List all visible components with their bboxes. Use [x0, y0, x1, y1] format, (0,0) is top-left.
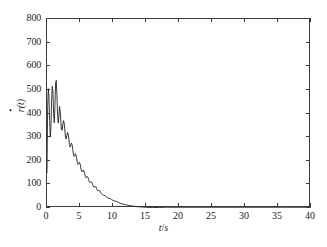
y-tick-label: 600	[7, 60, 41, 70]
x-tick-bottom	[46, 203, 47, 207]
y-tick-left	[46, 89, 50, 90]
y-tick-left	[46, 42, 50, 43]
series-r-dot-line	[47, 80, 311, 207]
x-tick-bottom	[244, 203, 245, 207]
x-tick-top	[46, 18, 47, 22]
x-tick-top	[79, 18, 80, 22]
derivative-dot-icon	[10, 109, 12, 111]
x-tick-bottom	[112, 203, 113, 207]
y-tick-label: 800	[7, 13, 41, 23]
y-tick-right	[306, 65, 310, 66]
y-tick-left	[46, 113, 50, 114]
y-tick-left	[46, 183, 50, 184]
x-tick-top	[145, 18, 146, 22]
x-axis-title: t/s	[0, 222, 327, 233]
y-axis-title-variable: r	[15, 108, 26, 112]
y-tick-right	[306, 160, 310, 161]
x-tick-bottom	[277, 203, 278, 207]
x-tick-top	[244, 18, 245, 22]
x-tick-label: 40	[295, 211, 325, 221]
x-tick-label: 5	[64, 211, 94, 221]
y-tick-right	[306, 183, 310, 184]
figure-canvas: 0100200300400500600700800 05101520253035…	[0, 0, 327, 247]
x-tick-label: 15	[130, 211, 160, 221]
y-axis-title-suffix: (t)	[15, 99, 26, 108]
x-tick-bottom	[178, 203, 179, 207]
y-tick-right	[306, 113, 310, 114]
y-tick-right	[306, 136, 310, 137]
x-tick-label: 35	[262, 211, 292, 221]
x-tick-top	[178, 18, 179, 22]
y-tick-right	[306, 207, 310, 208]
x-tick-bottom	[145, 203, 146, 207]
y-tick-left	[46, 65, 50, 66]
x-tick-bottom	[310, 203, 311, 207]
x-axis-title-unit: s	[164, 222, 168, 233]
x-tick-label: 20	[163, 211, 193, 221]
y-tick-left	[46, 136, 50, 137]
x-tick-label: 25	[196, 211, 226, 221]
x-tick-top	[277, 18, 278, 22]
y-tick-right	[306, 89, 310, 90]
y-tick-right	[306, 42, 310, 43]
y-tick-left	[46, 207, 50, 208]
data-curve-svg	[47, 19, 311, 208]
x-tick-top	[112, 18, 113, 22]
x-tick-top	[310, 18, 311, 22]
y-tick-left	[46, 160, 50, 161]
x-tick-top	[211, 18, 212, 22]
y-axis-title: r(t)	[15, 76, 26, 136]
y-tick-label: 700	[7, 37, 41, 47]
x-tick-bottom	[211, 203, 212, 207]
x-tick-label: 30	[229, 211, 259, 221]
x-tick-label: 0	[31, 211, 61, 221]
plot-area	[46, 18, 310, 207]
x-tick-bottom	[79, 203, 80, 207]
x-tick-label: 10	[97, 211, 127, 221]
y-tick-label: 200	[7, 155, 41, 165]
y-tick-label: 100	[7, 178, 41, 188]
